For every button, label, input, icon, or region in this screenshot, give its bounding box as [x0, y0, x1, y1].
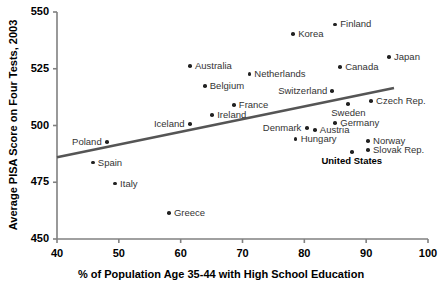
y-tick-label: 525 [19, 62, 49, 74]
data-point-label: Japan [394, 52, 420, 62]
x-tick-label: 70 [228, 247, 258, 259]
data-point [338, 65, 342, 69]
x-tick-label: 60 [166, 247, 196, 259]
data-point-label: Italy [120, 179, 137, 189]
data-point-label: Iceland [154, 119, 185, 129]
x-tick-label: 50 [104, 247, 134, 259]
data-point-label: Spain [98, 158, 122, 168]
data-point-label: Canada [345, 62, 378, 72]
data-point-label: Hungary [301, 134, 337, 144]
data-point [203, 84, 207, 88]
data-point [313, 128, 317, 132]
data-point [91, 161, 95, 165]
data-point [210, 113, 214, 117]
data-point-label: Denmark [263, 123, 302, 133]
data-point-label: Australia [195, 61, 232, 71]
data-point [188, 64, 192, 68]
data-point-label: Netherlands [254, 69, 305, 79]
y-axis-title-text: Average PISA Score on Four Tests, 2003 [7, 20, 19, 231]
data-point [248, 72, 252, 76]
scatter-chart: Average PISA Score on Four Tests, 2003 %… [0, 0, 442, 292]
y-tick-label: 475 [19, 175, 49, 187]
data-point-label: Slovak Rep. [373, 145, 424, 155]
data-point [350, 150, 354, 154]
data-point [291, 32, 295, 36]
x-axis-title: % of Population Age 35-44 with High Scho… [0, 268, 442, 280]
x-tick-label: 40 [42, 247, 72, 259]
y-tick-label: 450 [19, 232, 49, 244]
data-point-label: Belgium [210, 81, 244, 91]
data-point-label: Czech Rep. [376, 96, 426, 106]
data-point [167, 211, 171, 215]
data-point-label: Korea [298, 29, 323, 39]
data-point [366, 148, 370, 152]
data-point-label: Poland [72, 137, 102, 147]
data-point-label: Finland [340, 19, 371, 29]
data-point [305, 126, 309, 130]
data-point [387, 55, 391, 59]
data-point [369, 99, 373, 103]
data-point-label: Switzerland [278, 86, 327, 96]
y-tick-label: 500 [19, 119, 49, 131]
x-tick-label: 100 [413, 247, 442, 259]
data-point-label: Greece [174, 208, 205, 218]
data-point [232, 103, 236, 107]
x-tick-label: 90 [351, 247, 381, 259]
x-tick-label: 80 [289, 247, 319, 259]
y-tick-label: 550 [19, 5, 49, 17]
data-point [188, 122, 192, 126]
data-point-label: United States [321, 156, 382, 166]
data-point [366, 139, 370, 143]
data-point-label: Ireland [217, 110, 246, 120]
data-point [346, 102, 350, 106]
data-point [330, 89, 334, 93]
data-point [105, 140, 109, 144]
